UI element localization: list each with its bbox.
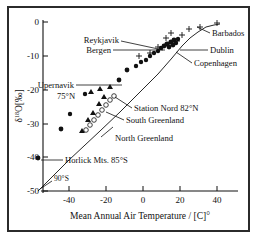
svg-text:δ18O[‰]: δ18O[‰] [14, 89, 25, 122]
data-point [36, 156, 41, 161]
y-tick-label-10: -10 [27, 51, 39, 61]
leader-copenhagen [176, 52, 192, 63]
scatter-plot: 0 -10 -20 -30 -40 -50 -40 -20 0 20 40 Me… [0, 0, 257, 239]
x-axis-title: Mean Annual Air Temperature / [C]° [70, 211, 210, 221]
label-barbados: Barbados [212, 28, 245, 38]
data-point [174, 41, 178, 45]
label-bergen: Bergen [86, 45, 111, 55]
label-station-nord: Station Nord 82°N [134, 103, 199, 113]
y-tick-label-0: 0 [35, 17, 40, 27]
y-tick-label-30: -30 [27, 119, 39, 129]
leader-barbados [197, 27, 210, 33]
data-point [168, 30, 174, 36]
label-south-pole: 90°S [54, 174, 69, 183]
y-tick-label-50: -50 [27, 186, 39, 196]
data-point [96, 101, 102, 106]
data-point [96, 113, 101, 118]
leader-reykjavik [121, 41, 163, 50]
label-copenhagen: Copenhagen [194, 58, 238, 68]
annotation-labels: Reykjavik Bergen Barbados Dublin Copenha… [38, 28, 245, 183]
x-tick-label-0: 0 [141, 195, 146, 205]
x-tick-label-minus40: -40 [63, 195, 75, 205]
label-north-greenland: North Greenland [115, 133, 174, 143]
data-point [101, 94, 107, 99]
x-tick-label-40: 40 [213, 195, 223, 205]
data-point [176, 37, 180, 41]
y-axis-ticks: 0 -10 -20 -30 -40 -50 [27, 17, 48, 196]
data-point [139, 60, 143, 64]
data-point [179, 32, 185, 38]
x-axis-ticks: -40 -20 0 20 40 [63, 186, 222, 205]
x-tick-label-20: 20 [176, 195, 186, 205]
figure-container: 0 -10 -20 -30 -40 -50 -40 -20 0 20 40 Me… [0, 0, 257, 239]
data-point [68, 112, 72, 116]
data-point [125, 68, 130, 73]
y-axis-title-rest: O[‰] [14, 89, 24, 112]
data-point [163, 35, 169, 41]
data-point [92, 118, 97, 123]
label-upernavik-latitude: 75°N [57, 91, 76, 101]
series-triangles [79, 84, 113, 133]
data-point [88, 123, 93, 128]
leader-south-pole [40, 181, 52, 189]
label-upernavik: Upernavik [38, 80, 75, 90]
data-point [108, 98, 113, 103]
data-point [147, 50, 153, 56]
leader-south-greenland [106, 112, 124, 120]
data-point [97, 86, 103, 91]
data-point [136, 53, 142, 59]
series-open-circles [84, 94, 117, 133]
data-point [84, 128, 89, 133]
data-point [104, 103, 109, 108]
data-point [134, 64, 138, 68]
label-dublin: Dublin [210, 45, 235, 55]
data-point [59, 127, 64, 132]
y-axis-title: δ18O[‰] [14, 89, 25, 122]
data-point [83, 92, 87, 96]
label-south-greenland: South Greenland [126, 115, 185, 125]
data-point [144, 58, 148, 62]
data-point [186, 26, 192, 32]
data-point [100, 108, 105, 113]
label-horlick-mts: Horlick Mts. 85°S [65, 155, 128, 165]
x-tick-label-minus20: -20 [100, 195, 112, 205]
data-point [90, 110, 96, 115]
data-point [85, 117, 91, 122]
data-point [88, 89, 94, 94]
label-reykjavik: Reykjavik [84, 35, 120, 45]
data-point [117, 78, 122, 83]
